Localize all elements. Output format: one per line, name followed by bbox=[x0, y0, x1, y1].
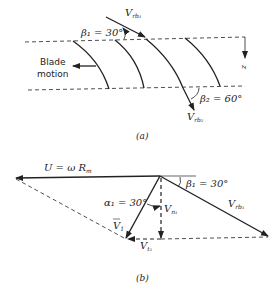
blade-1 bbox=[73, 41, 109, 89]
outlet-plane-line bbox=[28, 86, 245, 90]
blade-motion-label-1: Blade bbox=[40, 57, 66, 67]
panel-b: U = ω Rm β₁ = 30° α₁ = 30° Vn₁ Vrb₁ V1 V… bbox=[16, 162, 268, 283]
vn1-label: Vn₁ bbox=[164, 203, 178, 215]
blade-motion-label-2: motion bbox=[37, 69, 69, 79]
vrb1-label-b: Vrb₁ bbox=[228, 198, 244, 210]
blade-2 bbox=[115, 40, 144, 88]
blade-3 bbox=[146, 39, 183, 88]
u-label: U = ω Rm bbox=[44, 162, 92, 174]
beta1-label: β₁ = 30° bbox=[80, 27, 123, 38]
caption-b: (b) bbox=[136, 273, 149, 283]
u-vector bbox=[16, 176, 160, 178]
vt1-label: Vt₁ bbox=[140, 240, 152, 252]
closing-dashed-line bbox=[161, 237, 268, 239]
alpha1-angle-arc bbox=[147, 204, 160, 207]
beta1-angle-arc bbox=[123, 28, 125, 39]
vrb1-label: Vrb₁ bbox=[125, 7, 141, 19]
inlet-plane-line bbox=[25, 37, 245, 42]
turbine-velocity-diagram: Vrb₁ β₁ = 30° Blade motion z β₂ = 60° Vr… bbox=[0, 0, 277, 289]
beta2-label: β₂ = 60° bbox=[199, 93, 242, 104]
panel-a: Vrb₁ β₁ = 30° Blade motion z β₂ = 60° Vr… bbox=[25, 7, 249, 141]
beta1-label-b: β₁ = 30° bbox=[185, 178, 228, 189]
vrb2-label: Vrb₂ bbox=[187, 111, 204, 123]
parallelogram-dashed-line bbox=[16, 179, 124, 238]
caption-a: (a) bbox=[136, 131, 149, 141]
vrb2-outlet-arrow bbox=[183, 88, 194, 110]
alpha1-label: α₁ = 30° bbox=[104, 197, 147, 208]
v1-label: V1 bbox=[113, 220, 124, 232]
beta2-angle-arc bbox=[191, 88, 199, 99]
z-label: z bbox=[240, 64, 249, 70]
blade-4 bbox=[185, 38, 220, 86]
